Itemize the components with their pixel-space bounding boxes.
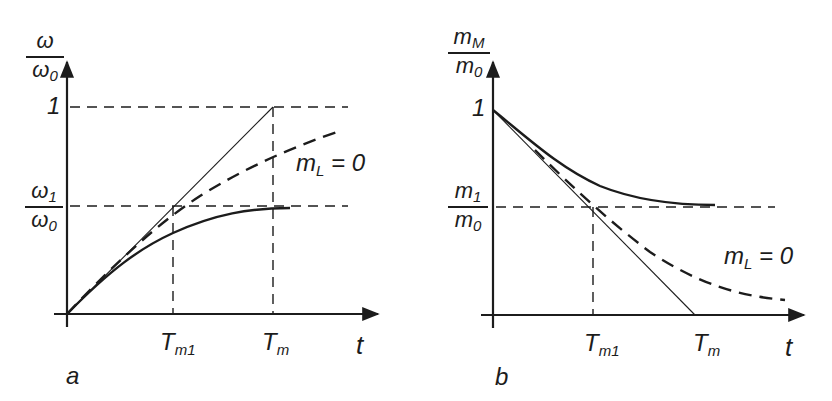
panel-a-y-axis-label: ω ω0: [26, 30, 64, 83]
panel-a-y-tick-omega-ratio: ω1 ω0: [25, 180, 63, 233]
panel-a-y-tick-one: 1: [47, 94, 60, 118]
panel-a-label: a: [66, 364, 79, 388]
panel-a-curve-loaded: [67, 208, 290, 314]
panel-b-x-tick-tm1: Tm1: [584, 331, 620, 358]
panel-b-label: b: [495, 365, 508, 389]
panel-b-y-tick-m-ratio: m1 m0: [448, 180, 488, 233]
panel-b-y-axis-label: mM m0: [448, 26, 490, 79]
panel-b-x-tick-tm: Tm: [693, 331, 720, 358]
panel-b-curve-loaded: [493, 110, 715, 205]
panel-b: [481, 62, 804, 328]
panel-a: [54, 62, 378, 327]
panel-b-tangent-line: [493, 110, 695, 315]
panel-a-x-axis-label: t: [356, 332, 363, 358]
panel-b-x-axis-label: t: [785, 334, 792, 360]
panel-a-curve-label: mL = 0: [296, 151, 365, 178]
panel-b-curve-label: mL = 0: [724, 244, 793, 271]
panel-b-y-tick-one: 1: [472, 96, 485, 120]
panel-a-x-tick-tm: Tm: [262, 330, 289, 357]
panel-a-x-tick-tm1: Tm1: [160, 330, 196, 357]
